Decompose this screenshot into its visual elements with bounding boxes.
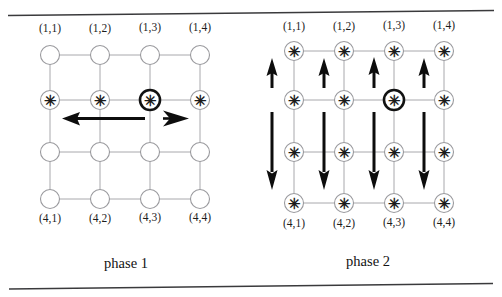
coord-label-bottom-2-p2: (4,2)	[333, 217, 355, 230]
coord-label-bottom-1-p2: (4,1)	[283, 217, 305, 230]
asterisk-p2-3-4: ✳	[438, 145, 451, 161]
node-4-3[interactable]	[141, 190, 160, 209]
asterisk-p2-1-1: ✳	[288, 44, 301, 60]
phase-1-caption: phase 1	[104, 255, 148, 271]
node-3-3[interactable]	[141, 143, 160, 162]
node-3-2[interactable]	[91, 143, 110, 162]
node-4-4[interactable]	[191, 190, 210, 209]
node-1-4[interactable]	[191, 46, 210, 65]
asterisk-p2-4-3: ✳	[388, 196, 401, 212]
coord-label-bottom-1: (4,1)	[39, 212, 61, 225]
panel-phase-1: (1,1) (1,2) (1,3) (1,4) ✳ ✳	[39, 21, 211, 271]
down-arrow-col4-icon	[419, 112, 430, 190]
coord-label-top-2: (1,2)	[89, 22, 111, 35]
coord-label-top-1: (1,1)	[39, 22, 61, 35]
coord-label-bottom-3-p2: (4,3)	[383, 216, 405, 229]
asterisk-p2-2-1: ✳	[288, 93, 301, 109]
asterisk-p2-1-4: ✳	[438, 44, 451, 60]
node-4-2[interactable]	[91, 190, 110, 209]
coord-label-bottom-4: (4,4)	[189, 211, 211, 224]
coord-label-bottom-3: (4,3)	[139, 211, 161, 224]
coord-label-top-3: (1,3)	[139, 21, 161, 34]
asterisk-2-4: ✳	[194, 93, 207, 109]
asterisk-p2-2-3: ✳	[388, 93, 401, 109]
figure-root: (1,1) (1,2) (1,3) (1,4) ✳ ✳	[0, 0, 502, 297]
down-arrow-col2-icon	[319, 112, 330, 190]
coord-label-bottom-2: (4,2)	[89, 212, 111, 225]
up-arrow-col2-icon	[319, 58, 330, 88]
node-4-1[interactable]	[41, 190, 60, 209]
coord-label-top-3-p2: (1,3)	[383, 19, 405, 32]
asterisk-p2-1-3: ✳	[388, 44, 401, 60]
phase-2-caption: phase 2	[346, 253, 390, 269]
down-arrow-col3-icon	[369, 112, 380, 190]
asterisk-p2-4-4: ✳	[438, 196, 451, 212]
up-arrow-col3-icon	[369, 57, 380, 88]
coord-label-top-1-p2: (1,1)	[283, 20, 305, 33]
asterisk-p2-3-2: ✳	[338, 145, 351, 161]
asterisk-p2-3-3: ✳	[388, 145, 401, 161]
asterisk-p2-3-1: ✳	[288, 145, 301, 161]
node-1-3[interactable]	[141, 46, 160, 65]
node-3-1[interactable]	[41, 143, 60, 162]
node-1-1[interactable]	[41, 46, 60, 65]
down-arrow-col1-icon	[267, 112, 278, 190]
asterisk-p2-1-2: ✳	[338, 44, 351, 60]
up-arrow-col4-icon	[419, 58, 430, 88]
panel-phase-2: (1,1) (1,2) (1,3) (1,4) ✳ ✳ ✳ ✳	[267, 19, 456, 269]
figure-canvas: (1,1) (1,2) (1,3) (1,4) ✳ ✳	[0, 0, 502, 297]
coord-label-bottom-4-p2: (4,4)	[433, 216, 455, 229]
node-1-2[interactable]	[91, 46, 110, 65]
left-long-arrow-icon	[62, 112, 145, 126]
grid-lines-phase-1	[50, 55, 200, 199]
right-short-arrow-icon	[163, 111, 189, 127]
up-arrow-col1-icon	[267, 58, 278, 88]
coord-label-top-4-p2: (1,4)	[433, 19, 455, 32]
asterisk-2-3: ✳	[144, 93, 157, 109]
asterisk-p2-2-2: ✳	[338, 93, 351, 109]
asterisk-p2-4-1: ✳	[288, 196, 301, 212]
top-horizontal-rule	[8, 11, 494, 16]
asterisk-p2-2-4: ✳	[438, 93, 451, 109]
bottom-horizontal-rule	[9, 284, 493, 290]
node-3-4[interactable]	[191, 143, 210, 162]
coord-label-top-4: (1,4)	[189, 21, 211, 34]
asterisk-2-2: ✳	[94, 93, 107, 109]
asterisk-p2-4-2: ✳	[338, 196, 351, 212]
asterisk-2-1: ✳	[44, 93, 57, 109]
coord-label-top-2-p2: (1,2)	[333, 20, 355, 33]
